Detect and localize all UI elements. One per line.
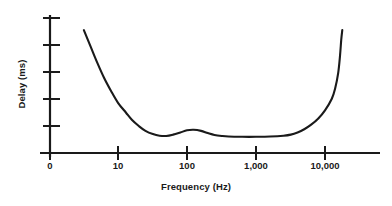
x-axis-title: Frequency (Hz) bbox=[0, 181, 392, 192]
x-tick-label-1000: 1,000 bbox=[244, 160, 268, 171]
x-tick-label-10: 10 bbox=[113, 160, 124, 171]
chart-container: Delay (ms) Frequency (Hz) 0 10 100 1,000… bbox=[0, 0, 392, 206]
x-tick-label-0: 0 bbox=[47, 160, 52, 171]
y-axis-title: Delay (ms) bbox=[14, 49, 28, 119]
x-tick-label-100: 100 bbox=[179, 160, 195, 171]
x-tick-label-10000: 10,000 bbox=[310, 160, 339, 171]
chart-plot-area bbox=[0, 0, 392, 206]
delay-frequency-curve bbox=[84, 30, 342, 137]
y-axis-title-text: Delay (ms) bbox=[16, 59, 27, 108]
y-axis-ticks bbox=[43, 18, 60, 126]
